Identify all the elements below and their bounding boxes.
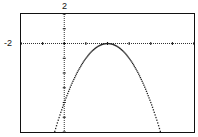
parabola-curve [54,43,161,132]
axes [21,14,194,132]
window-frame [21,14,195,133]
graph-screen [0,0,198,137]
